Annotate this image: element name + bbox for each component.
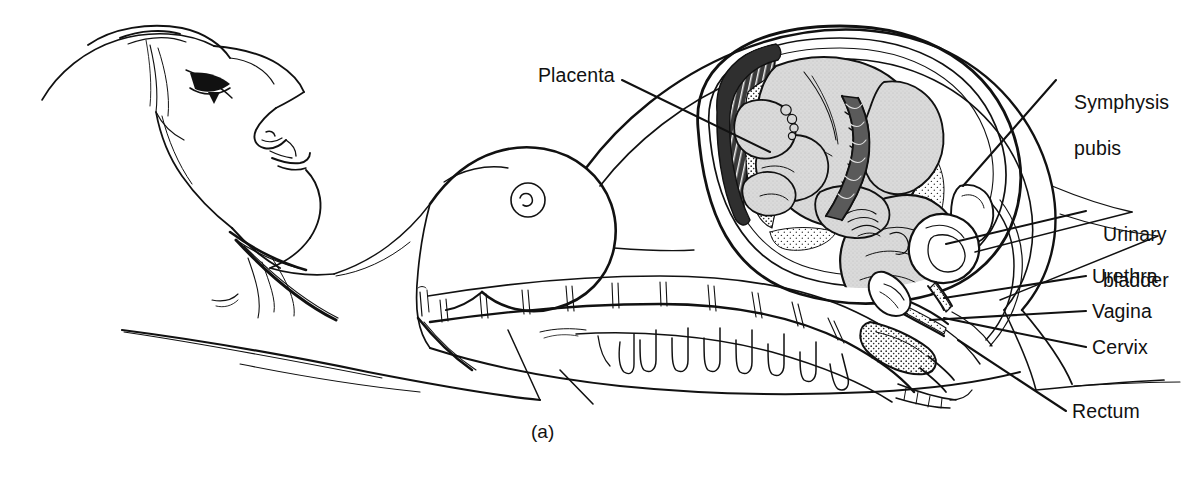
- label-cervix: Cervix: [1092, 336, 1148, 359]
- torso-and-breast: [334, 147, 694, 348]
- leader-spine-pointer: [508, 330, 540, 400]
- neck-and-shoulder: [156, 112, 338, 320]
- label-rectum: Rectum: [1072, 400, 1140, 423]
- label-placenta: Placenta: [538, 64, 615, 87]
- label-symphysis-pubis-line2: pubis: [1074, 137, 1121, 159]
- maternal-head: [42, 26, 321, 268]
- label-vagina: Vagina: [1092, 300, 1152, 323]
- leader-caption-tick: [560, 370, 593, 404]
- nipple: [511, 183, 545, 217]
- label-urethra: Urethra: [1092, 265, 1158, 288]
- figure-container: Placenta Symphysis pubis Urinary bladder…: [0, 0, 1195, 478]
- vertebral-column: [418, 276, 926, 402]
- label-symphysis-pubis: Symphysis pubis: [1063, 68, 1169, 160]
- urinary-bladder: [909, 214, 979, 283]
- label-symphysis-pubis-line1: Symphysis: [1074, 91, 1169, 113]
- figure-caption: (a): [531, 421, 554, 443]
- leader-rectum: [958, 340, 1066, 411]
- leader-symphysis-pubis: [963, 80, 1056, 186]
- label-urinary-bladder-line1: Urinary: [1103, 223, 1167, 245]
- lower-body-and-bed: [122, 318, 1180, 400]
- leader-cervix: [944, 318, 1086, 347]
